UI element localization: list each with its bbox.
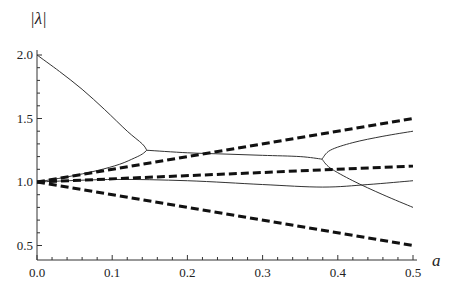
x-axis-label: a (432, 251, 441, 270)
axes: 0.00.10.20.30.40.50.51.01.52.0 (17, 47, 421, 280)
y-tick-label: 0.5 (17, 238, 33, 253)
x-tick-label: 0.0 (29, 265, 45, 280)
x-tick-label: 0.2 (179, 265, 195, 280)
y-axis-label: |λ| (30, 9, 47, 28)
eigenvalue-plot: 0.00.10.20.30.40.50.51.01.52.0 |λ| a (0, 0, 453, 289)
y-tick-label: 1.5 (17, 111, 33, 126)
series-dashed-upper (37, 119, 413, 183)
x-tick-label: 0.5 (405, 265, 421, 280)
y-tick-label: 1.0 (17, 174, 33, 189)
x-tick-label: 0.4 (330, 265, 347, 280)
series-dashed-lower (37, 182, 413, 246)
series-solid-branch-up (322, 131, 413, 159)
x-tick-label: 0.3 (254, 265, 270, 280)
x-tick-label: 0.1 (104, 265, 120, 280)
series-solid-lower-start (37, 150, 147, 182)
y-tick-label: 2.0 (17, 47, 33, 62)
series-solid-upper-start (37, 55, 147, 150)
series-group (37, 55, 413, 246)
series-solid-near-one (37, 179, 413, 187)
